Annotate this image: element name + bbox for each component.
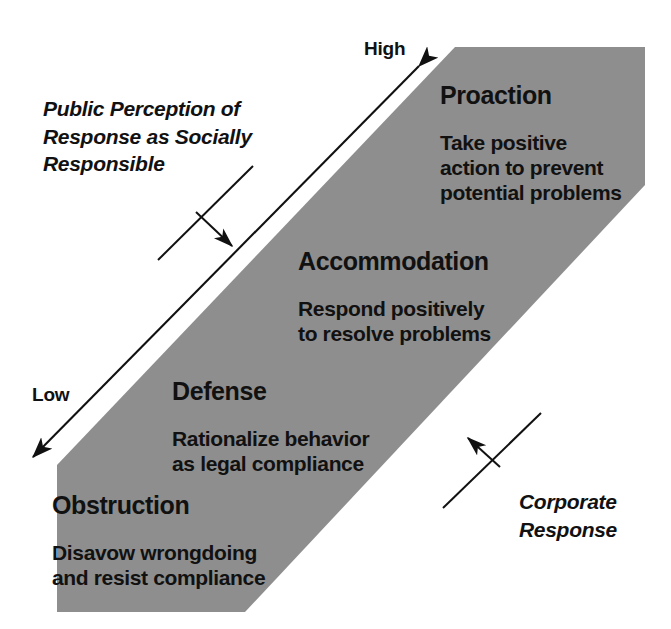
- diagram-canvas: Proaction Take positive action to preven…: [0, 0, 671, 629]
- stage-block-proaction: Proaction Take positive action to preven…: [440, 62, 622, 224]
- stage-block-obstruction: Obstruction Disavow wrongdoing and resis…: [52, 472, 265, 609]
- axis-label-high: High: [364, 38, 405, 60]
- axis-label-low: Low: [32, 384, 69, 406]
- stage-description-defense: Rationalize behavior as legal compliance: [172, 426, 369, 476]
- stage-description-accommodation: Respond positively to resolve problems: [298, 296, 491, 346]
- stage-description-obstruction: Disavow wrongdoing and resist compliance: [52, 540, 265, 590]
- stage-title-accommodation: Accommodation: [298, 247, 491, 276]
- stage-description-proaction: Take positive action to prevent potentia…: [440, 130, 622, 206]
- stage-title-obstruction: Obstruction: [52, 491, 265, 520]
- stage-block-accommodation: Accommodation Respond positively to reso…: [298, 228, 491, 365]
- axis-caption-public-perception: Public Perception of Response as Sociall…: [43, 95, 313, 178]
- axis-caption-corporate-response: Corporate Response: [519, 488, 669, 543]
- stage-title-defense: Defense: [172, 377, 369, 406]
- stage-title-proaction: Proaction: [440, 81, 622, 110]
